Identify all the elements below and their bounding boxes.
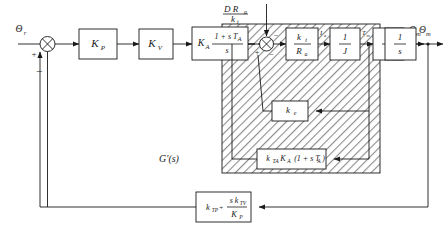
input-signal-label: Θ r (16, 24, 27, 36)
block-kp-sub: P (100, 44, 106, 52)
block-back-emf[interactable]: k e (272, 101, 308, 121)
block-kv-label: K (147, 37, 156, 49)
block-ktp-label: k (206, 202, 210, 212)
block-ktra-denominator: R (295, 46, 302, 56)
block-ktaka-K: K (279, 154, 286, 163)
block-ktaka-K-sub: A (286, 158, 291, 164)
control-system-block-diagram: + − Θ r K P K V K A 1 + s T A s + − − D … (0, 0, 445, 239)
block-int1-denominator: s (386, 46, 390, 56)
output-theta-sub: m (416, 30, 421, 37)
block-ktaka-tail-sub: A (316, 158, 321, 164)
block-ka-gain-sub: A (205, 43, 210, 50)
block-ktaka-tail-end: ) (321, 154, 325, 163)
block-diagram-canvas: + − Θ r K P K V K A 1 + s T A s + − − D … (0, 0, 445, 239)
wire-outer-feedback-to-sum1 (40, 52, 196, 207)
sum2-minus-sign-bemf: − (269, 50, 274, 59)
subsystem-label: G'(s) (159, 153, 180, 165)
block-ktv-numerator: s k (230, 196, 239, 205)
node-speed-tap (367, 42, 370, 45)
block-ktp-plus: + (219, 204, 224, 212)
block-kp-denominator-sub: P (238, 214, 243, 220)
block-invj-numerator: 1 (343, 32, 348, 42)
sum1-plus-sign: + (31, 49, 36, 59)
block-ktra-denominator-sub: a (305, 51, 308, 57)
block-int1-numerator: 1 (386, 32, 391, 42)
block-ka-numerator: 1 + s T (215, 32, 239, 41)
disturbance-label: D R a k t (223, 4, 248, 25)
output-theta: Θ (409, 25, 416, 35)
label-Tm: T (362, 29, 366, 36)
input-theta-sub: r (24, 29, 27, 36)
block-current-feedback[interactable]: k TA K A (1 + s T A ) (257, 149, 326, 169)
block-kv[interactable]: K V (139, 29, 173, 59)
block-outer-feedback[interactable]: k TP + s k TV K P (196, 192, 251, 222)
node-output-tap (426, 42, 429, 45)
block-kv-sub: V (158, 44, 163, 52)
block-inverse-inertia[interactable]: 1 J (330, 28, 360, 60)
input-theta: Θ (16, 24, 23, 34)
block-kp[interactable]: K P (79, 29, 117, 59)
block-kp-label: K (90, 37, 99, 49)
block-ktv-numerator-sub: TV (240, 200, 247, 206)
block-ka-gain: K (197, 37, 206, 48)
subsystem-label-text: G'(s) (159, 153, 180, 165)
block-ka-numerator-sub: A (237, 36, 242, 42)
block-ka-lead[interactable]: K A 1 + s T A s (192, 27, 248, 60)
disturbance-numerator: D R (223, 4, 239, 14)
sum2-minus-sign-disturbance: − (274, 31, 279, 40)
disturbance-denominator: k (231, 14, 236, 24)
block-ktaka-k: k (266, 154, 270, 163)
block-kt-over-ra[interactable]: k t R a (286, 28, 318, 60)
block-integrator-speed[interactable]: 1 s (373, 28, 404, 60)
block-ke-sub: e (294, 110, 297, 116)
block-ka-denominator: s (225, 46, 228, 55)
block-ktaka-k-sub: TA (272, 158, 279, 164)
sum1-minus-sign: − (36, 65, 42, 77)
